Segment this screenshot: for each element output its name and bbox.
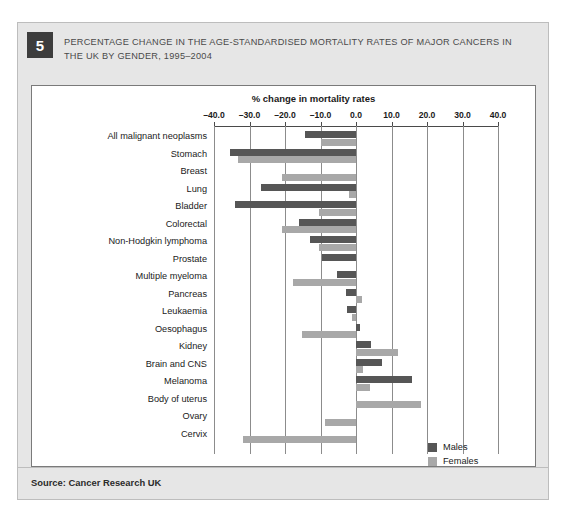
gridline [498,126,499,454]
chart-row: Body of uterus [214,393,498,411]
chart-row: Oesophagus [214,323,498,341]
bar-females [243,436,356,443]
chart-row: All malignant neoplasms [214,130,498,148]
category-label: Non-Hodgkin lymphoma [108,236,207,246]
chart-axis-title: % change in mortality rates [32,93,535,104]
category-label: All malignant neoplasms [107,131,207,141]
bar-males [356,341,371,348]
x-tick-label: 30.0 [454,110,471,120]
bar-females [356,296,362,303]
category-label: Brain and CNS [146,359,207,369]
bar-males [310,236,356,243]
bar-females [319,244,356,251]
tick-mark [321,122,322,126]
category-label: Stomach [171,149,207,159]
bar-females [293,279,356,286]
bar-females [282,174,356,181]
x-tick-label: 40.0 [490,110,507,120]
category-label: Lung [187,184,207,194]
bar-males [322,254,356,261]
bar-males [299,219,356,226]
tick-mark [250,122,251,126]
chart-row: Lung [214,183,498,201]
legend-swatch-females [428,457,437,466]
tick-mark [463,122,464,126]
category-label: Bladder [175,201,207,211]
tick-mark [214,122,215,126]
category-label: Kidney [179,341,207,351]
category-label: Melanoma [164,376,207,386]
chart-row: Ovary [214,410,498,428]
chart-row: Kidney [214,340,498,358]
bar-females [325,419,356,426]
category-label: Ovary [182,411,207,421]
tick-mark [392,122,393,126]
chart-row: Prostate [214,253,498,271]
x-tick-label: 0.0 [350,110,362,120]
legend-label-females: Females [443,456,478,466]
chart-row: Leukaemia [214,305,498,323]
chart-row: Stomach [214,148,498,166]
bar-males [356,359,382,366]
bar-males [347,306,356,313]
tick-mark [498,122,499,126]
category-label: Colorectal [166,219,207,229]
source-bar: Source: Cancer Research UK [18,467,548,499]
category-label: Leukaemia [162,306,207,316]
bar-males [356,376,412,383]
x-tick-label: 10.0 [383,110,400,120]
x-tick-label: 20.0 [419,110,436,120]
category-label: Cervix [181,429,207,439]
category-label: Oesophagus [155,324,207,334]
bar-males [235,201,356,208]
bar-females [356,401,421,408]
bar-males [261,184,356,191]
plot-area: –40.0–30.0–20.0–10.00.010.020.030.040.0 … [214,126,498,454]
chart-row: Colorectal [214,218,498,236]
bar-females [356,349,398,356]
bar-males [346,289,356,296]
chart-row: Non-Hodgkin lymphoma [214,235,498,253]
chart-row: Bladder [214,200,498,218]
bar-females [349,191,356,198]
category-label: Multiple myeloma [136,271,207,281]
bar-females [356,384,370,391]
x-tick-label: –40.0 [203,110,225,120]
tick-mark [285,122,286,126]
bar-females [319,209,356,216]
bar-females [356,366,363,373]
chart-legend: Males Females [428,442,478,470]
bar-females [321,139,356,146]
category-label: Breast [180,166,207,176]
source-text: Source: Cancer Research UK [31,477,161,488]
legend-item-females: Females [428,456,478,466]
bar-females [302,331,356,338]
category-label: Prostate [173,254,207,264]
bar-females [282,226,356,233]
figure-title: PERCENTAGE CHANGE IN THE AGE-STANDARDISE… [64,32,519,63]
figure-number-badge: 5 [27,32,53,58]
bar-males [337,271,356,278]
bar-females [352,314,356,321]
legend-label-males: Males [443,442,468,452]
chart-row: Pancreas [214,288,498,306]
tick-mark [427,122,428,126]
bar-males [305,131,356,138]
chart-row: Melanoma [214,375,498,393]
category-label: Body of uterus [148,394,207,404]
bar-females [238,156,356,163]
figure-header: 5 PERCENTAGE CHANGE IN THE AGE-STANDARDI… [18,23,548,69]
legend-swatch-males [428,443,437,452]
chart-row: Multiple myeloma [214,270,498,288]
x-tick-label: –20.0 [274,110,296,120]
figure-container: 5 PERCENTAGE CHANGE IN THE AGE-STANDARDI… [17,22,549,500]
tick-mark [356,122,357,126]
chart-panel: % change in mortality rates –40.0–30.0–2… [31,85,536,467]
category-label: Pancreas [168,289,207,299]
bar-males [230,149,356,156]
x-tick-label: –10.0 [310,110,332,120]
x-tick-label: –30.0 [239,110,261,120]
chart-row: Brain and CNS [214,358,498,376]
chart-row: Breast [214,165,498,183]
legend-item-males: Males [428,442,478,452]
